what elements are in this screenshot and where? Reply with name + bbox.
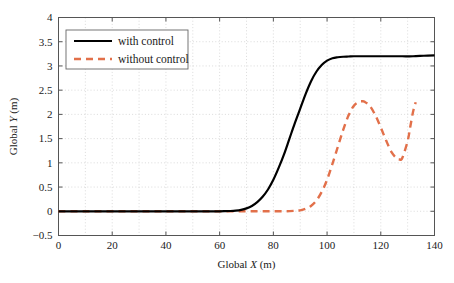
y-tick-label: 3.5 [39,36,53,48]
y-axis-title: Global Y (m) [7,97,20,155]
y-tick-label: 1 [47,157,53,169]
y-tick-label: 4 [47,11,53,23]
y-tick-label: −0.5 [33,229,53,241]
y-tick-label: 0.5 [39,181,53,193]
x-tick-label: 40 [160,239,172,251]
legend-label: without control [118,53,189,65]
figure-container: 020406080100120140−0.500.511.522.533.54 … [0,0,454,283]
legend-label: with control [118,35,174,47]
y-tick-label: 1.5 [39,132,53,144]
x-tick-label: 100 [319,239,336,251]
legend: with controlwithout control [66,30,189,69]
x-tick-label: 80 [268,239,280,251]
line-chart: 020406080100120140−0.500.511.522.533.54 … [0,0,454,283]
y-tick-label: 0 [47,205,53,217]
y-tick-label: 2.5 [39,84,53,96]
x-tick-label: 120 [373,239,390,251]
y-tick-label: 3 [47,60,53,72]
y-tick-label: 2 [47,108,53,120]
x-tick-label: 60 [214,239,226,251]
x-tick-label: 20 [107,239,119,251]
x-axis-title: Global X (m) [217,258,275,271]
x-tick-label: 140 [426,239,443,251]
x-tick-label: 0 [56,239,62,251]
series-line [59,101,416,211]
